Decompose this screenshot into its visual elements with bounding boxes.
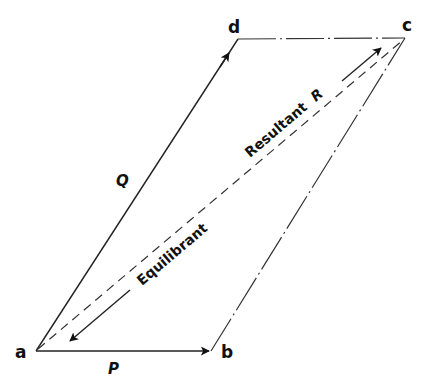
vertex-label-b: b (221, 342, 233, 362)
vertex-label-d: d (228, 17, 240, 37)
force-q-arrowhead (220, 53, 229, 67)
force-label-q: Q (116, 172, 129, 190)
edge-bc (211, 38, 405, 351)
force-parallelogram-diagram: a b c d P Q Resultant R Equilibrant (0, 0, 428, 391)
vertex-label-a: a (15, 342, 26, 362)
force-label-p: P (108, 360, 119, 378)
equilibrant-text: Equilibrant (134, 220, 211, 289)
diagonal-ac (38, 40, 403, 349)
resultant-text: Resultant (242, 99, 311, 161)
edge-dc (238, 38, 405, 39)
equilibrant-arrow (70, 290, 130, 341)
equilibrant-label: Equilibrant (134, 220, 211, 289)
force-q-vector (36, 39, 238, 351)
resultant-arrow (342, 48, 381, 81)
resultant-symbol: R (307, 85, 326, 104)
svg-text:Resultant R: Resultant R (242, 85, 326, 160)
resultant-label: Resultant R (242, 85, 326, 160)
vertex-label-c: c (402, 15, 412, 35)
